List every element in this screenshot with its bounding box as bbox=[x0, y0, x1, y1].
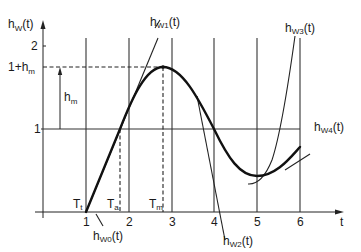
hw0-leader bbox=[96, 214, 103, 226]
y-axis-arrow-icon bbox=[41, 20, 46, 29]
y-tick-label-1-plus-hm: 1+hm bbox=[8, 60, 35, 76]
hw0-label: hW0(t) bbox=[93, 229, 123, 244]
tt-marker-label: Tt bbox=[73, 197, 83, 212]
hw4-label: hW4(t) bbox=[314, 120, 344, 135]
hm-arrow-head-icon bbox=[58, 67, 62, 75]
x-tick-label-3: 3 bbox=[169, 215, 176, 229]
x-tick-label-2: 2 bbox=[126, 215, 133, 229]
tm-marker-label: Tm bbox=[149, 197, 163, 212]
y-tick-label-2: 2 bbox=[31, 39, 38, 53]
x-tick-label-4: 4 bbox=[211, 215, 218, 229]
hw3-label: hW3(t) bbox=[285, 21, 315, 36]
step-response-diagram: hW(t) 2 1+hm 1 hm 1 2 3 4 5 6 t Tt Ta Tm… bbox=[0, 0, 361, 252]
labels: hW(t) 2 1+hm 1 hm 1 2 3 4 5 6 t Tt Ta Tm… bbox=[8, 15, 344, 249]
y-tick-label-1: 1 bbox=[34, 122, 41, 136]
axes bbox=[35, 20, 344, 218]
hw1-label: hW1(t) bbox=[150, 15, 180, 30]
ta-marker-label: Ta bbox=[107, 197, 119, 212]
x-axis-label: t bbox=[340, 215, 344, 229]
x-tick-label-6: 6 bbox=[297, 215, 304, 229]
x-tick-label-5: 5 bbox=[254, 215, 261, 229]
curve-hw4-tangent bbox=[285, 154, 310, 170]
hm-label: hm bbox=[64, 90, 78, 106]
hw2-label: hW2(t) bbox=[223, 234, 253, 249]
x-tick-label-1: 1 bbox=[83, 215, 90, 229]
y-axis-label: hW(t) bbox=[8, 17, 34, 33]
curve-hw-main bbox=[86, 67, 300, 212]
x-axis-arrow-icon bbox=[335, 210, 344, 215]
vertical-gridlines bbox=[86, 38, 300, 212]
curve-hw3 bbox=[248, 36, 295, 184]
